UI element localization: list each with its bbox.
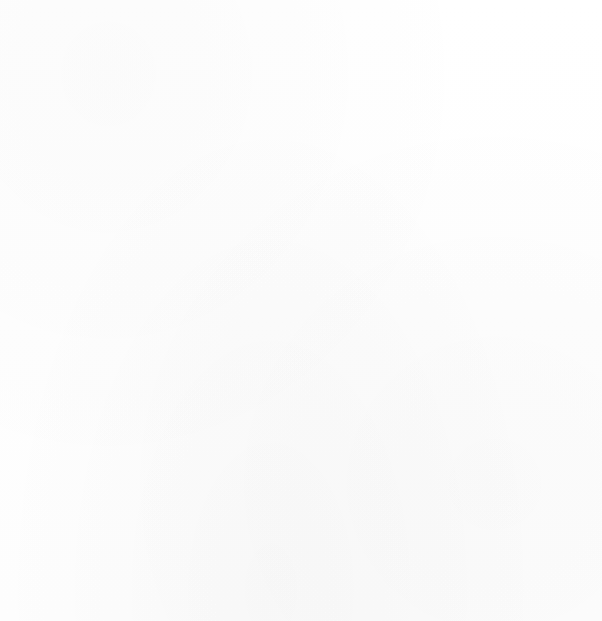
chart-bar bbox=[538, 443, 546, 458]
chart-row: 0.5 bbox=[0, 171, 578, 195]
chart-bar bbox=[538, 541, 546, 556]
chart-value-label: 0.4 bbox=[552, 347, 567, 359]
chart-value-label: 0.6 bbox=[552, 79, 567, 91]
page-bottom-rule bbox=[0, 601, 602, 603]
chart-bar bbox=[535, 345, 546, 360]
chart-row: 0.3 bbox=[0, 512, 578, 536]
chart-value-label: 0.5 bbox=[552, 274, 567, 286]
chart-bar bbox=[533, 150, 546, 165]
chart-bar-track bbox=[0, 419, 546, 434]
page-top-rule bbox=[0, 6, 602, 8]
chart-row: 0.3 bbox=[0, 463, 578, 487]
chart-bar-track bbox=[0, 126, 546, 141]
chart-bar bbox=[535, 419, 546, 434]
chart-value-label: 0.4 bbox=[552, 396, 567, 408]
chart-value-label: 0.3 bbox=[552, 518, 567, 530]
chart-bar bbox=[328, 565, 546, 582]
chart-row: 0.4 bbox=[0, 390, 578, 414]
chart-title-line-2-tail: 1+3, 퍼센트 bbox=[99, 51, 156, 63]
scanned-page: 1988년~2015년 전 세계 산업 온실가스 배출량 산출 영역scope1… bbox=[0, 0, 602, 621]
chart-row: 0.3 bbox=[0, 439, 578, 463]
chart-title-line-1: 1988년~2015년 전 세계 산업 온실가스 bbox=[0, 27, 420, 45]
chart-value-label: 0.3 bbox=[552, 493, 567, 505]
source-footnote: CDP Carbon Majors Report, 2017 Author: D… bbox=[0, 572, 117, 593]
chart-row: 0.3 bbox=[0, 536, 578, 560]
source-report: CDP Carbon Majors Report, 2017 bbox=[0, 572, 117, 583]
chart-title-block: 1988년~2015년 전 세계 산업 온실가스 배출량 산출 영역scope1… bbox=[0, 27, 420, 66]
chart-bar bbox=[538, 516, 546, 531]
chart-value-label: 0.4 bbox=[552, 371, 567, 383]
chart-value-label: 7.4 bbox=[552, 568, 567, 580]
chart-row: 0.4 bbox=[0, 414, 578, 438]
chart-bar bbox=[538, 467, 546, 482]
chart-bar-track bbox=[0, 394, 546, 409]
chart-bar bbox=[535, 394, 546, 409]
chart-value-label: 0.6 bbox=[552, 103, 567, 115]
chart-bar-track bbox=[0, 516, 546, 531]
source-author: Author: Dr. Paul Griffin bbox=[0, 583, 117, 594]
chart-bar-track bbox=[0, 272, 546, 287]
chart-value-label: 0.5 bbox=[552, 249, 567, 261]
chart-value-label: 0.3 bbox=[552, 542, 567, 554]
chart-row: 0.6 bbox=[0, 73, 578, 97]
chart-bar-track bbox=[0, 102, 546, 117]
chart-row: 0.4 bbox=[0, 366, 578, 390]
chart-row: 0.5 bbox=[0, 195, 578, 219]
chart-row: 0.5 bbox=[0, 219, 578, 243]
chart-row: 0.4 bbox=[0, 341, 578, 365]
chart-bar bbox=[530, 126, 546, 141]
chart-title-line-2-main: 배출량 산출 영역 bbox=[0, 51, 79, 63]
chart-value-label: 0.5 bbox=[552, 176, 567, 188]
chart-bar-track bbox=[0, 224, 546, 239]
chart-row: 0.5 bbox=[0, 268, 578, 292]
chart-row: 0.5 bbox=[0, 146, 578, 170]
chart-value-label: 0.5 bbox=[552, 225, 567, 237]
chart-bar-track bbox=[0, 248, 546, 263]
chart-bar-track bbox=[0, 541, 546, 556]
chart-bar-track bbox=[0, 345, 546, 360]
chart-row: 0.6 bbox=[0, 97, 578, 121]
chart-bar-track bbox=[0, 443, 546, 458]
chart-bar bbox=[533, 248, 546, 263]
chart-bar-track bbox=[0, 77, 546, 92]
chart-bar bbox=[533, 175, 546, 190]
chart-row: 0.3 bbox=[0, 488, 578, 512]
chart-bar bbox=[538, 492, 546, 507]
chart-bar bbox=[533, 321, 546, 336]
chart-title-scope-superscript: scope bbox=[79, 49, 99, 58]
chart-bar bbox=[535, 370, 546, 385]
chart-bar bbox=[530, 77, 546, 92]
chart-value-label: 0.5 bbox=[552, 323, 567, 335]
horizontal-bar-chart: 0.60.60.60.50.50.50.50.50.50.50.50.40.40… bbox=[0, 73, 578, 587]
page-right-rule bbox=[578, 7, 579, 595]
chart-bar bbox=[530, 102, 546, 117]
chart-row: 0.6 bbox=[0, 122, 578, 146]
chart-bar-track bbox=[0, 321, 546, 336]
chart-row: 0.5 bbox=[0, 244, 578, 268]
chart-bar bbox=[533, 199, 546, 214]
chart-bar-track bbox=[0, 175, 546, 190]
chart-row: 0.5 bbox=[0, 293, 578, 317]
chart-value-label: 0.4 bbox=[552, 420, 567, 432]
chart-bar-track bbox=[0, 467, 546, 482]
chart-bar-track bbox=[0, 199, 546, 214]
chart-bar-track bbox=[0, 492, 546, 507]
chart-value-label: 0.3 bbox=[552, 469, 567, 481]
chart-row: 0.5 bbox=[0, 317, 578, 341]
chart-bar-track bbox=[0, 297, 546, 312]
chart-value-label: 0.5 bbox=[552, 152, 567, 164]
chart-value-label: 0.3 bbox=[552, 445, 567, 457]
chart-title-line-2: 배출량 산출 영역scope1+3, 퍼센트 bbox=[0, 45, 420, 66]
chart-bar bbox=[533, 272, 546, 287]
chart-value-label: 0.5 bbox=[552, 201, 567, 213]
chart-value-label: 0.5 bbox=[552, 298, 567, 310]
chart-value-label: 0.6 bbox=[552, 127, 567, 139]
chart-bar-track bbox=[0, 150, 546, 165]
chart-bar bbox=[533, 297, 546, 312]
chart-bar-track bbox=[0, 370, 546, 385]
chart-bar bbox=[533, 224, 546, 239]
